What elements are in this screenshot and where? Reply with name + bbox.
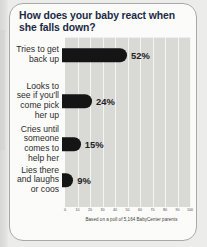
bar-value-label: 52% <box>131 50 150 61</box>
x-axis-tick-label: 20 <box>88 208 92 212</box>
x-axis-tick-label: 10 <box>76 208 80 212</box>
bar-value-label: 24% <box>96 96 115 107</box>
x-axis-tick-label: 0 <box>64 208 66 212</box>
page-gutter-shadow <box>0 30 5 150</box>
bar <box>62 94 92 108</box>
bar-track: 24% <box>62 94 195 108</box>
bar-track: 9% <box>62 173 195 187</box>
bar-value-label: 9% <box>77 175 91 186</box>
x-axis-tick-label: 100 <box>187 208 193 212</box>
bar-chart: Tries to getback up52%Looks tosee if you… <box>10 37 197 241</box>
x-axis: 0102030405060708090100 <box>65 207 190 217</box>
bar <box>62 173 73 187</box>
x-axis-tick-label: 40 <box>113 208 117 212</box>
chart-title: How does your baby react when she falls … <box>19 10 187 34</box>
bar-row: Looks tosee if you'llcome pickher up24% <box>10 79 197 123</box>
source-footnote: Based on a poll of 5,164 BabyCenter pare… <box>65 217 197 222</box>
bar-rows: Tries to getback up52%Looks tosee if you… <box>10 37 197 207</box>
bar <box>62 137 81 151</box>
page-background: How does your baby react when she falls … <box>0 0 207 247</box>
x-axis-tick-label: 60 <box>138 208 142 212</box>
infographic-card: How does your baby react when she falls … <box>9 3 197 241</box>
x-axis-tick-label: 70 <box>151 208 155 212</box>
bar-category-label: Looks tosee if you'llcome pickher up <box>10 82 62 120</box>
bar <box>62 48 127 62</box>
x-axis-tick-label: 50 <box>126 208 130 212</box>
x-axis-tick-label: 30 <box>101 208 105 212</box>
bar-row: Cries untilsomeonecomes tohelp her15% <box>10 122 197 166</box>
x-axis-tick-label: 80 <box>163 208 167 212</box>
bar-category-label: Tries to getback up <box>10 45 62 64</box>
bar-row: Lies thereand laughsor coos9% <box>10 163 197 197</box>
bar-category-label: Lies thereand laughsor coos <box>10 166 62 195</box>
bar-value-label: 15% <box>85 139 104 150</box>
bar-row: Tries to getback up52% <box>10 40 197 70</box>
x-axis-tick-label: 90 <box>176 208 180 212</box>
bar-track: 52% <box>62 48 195 62</box>
bar-track: 15% <box>62 137 195 151</box>
bar-category-label: Cries untilsomeonecomes tohelp her <box>10 125 62 163</box>
